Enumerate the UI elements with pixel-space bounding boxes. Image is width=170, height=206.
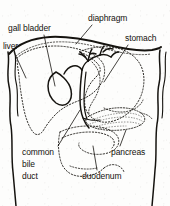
label-duodenum: duodenum <box>82 171 121 181</box>
torso-right-contour <box>152 50 160 206</box>
hepatic-duct-branch-mid-twig <box>90 53 96 54</box>
gall-bladder-outline <box>48 72 71 105</box>
torso-right-inner-contour <box>162 52 166 118</box>
stomach-antrum-fold <box>104 100 143 112</box>
label-common-bile-duct-line1: common <box>22 147 54 157</box>
duodenum-lower-fold <box>70 166 97 169</box>
leader-common-bile-duct <box>58 110 80 146</box>
label-pancreas: pancreas <box>111 147 145 157</box>
label-gall-bladder: gall bladder <box>8 23 51 33</box>
leader-stomach <box>104 45 128 82</box>
label-diaphragm: diaphragm <box>88 13 127 23</box>
anatomy-figure: gall bladder diaphragm stomach liver com… <box>0 0 170 206</box>
hepatic-duct-branch-right-twig <box>100 55 111 57</box>
stomach-lesser-curvature <box>89 62 100 114</box>
duodenum-inner-wall <box>62 132 114 148</box>
leader-duodenum <box>93 146 97 170</box>
label-common-bile-duct-line3: duct <box>22 171 38 181</box>
leader-pancreas <box>120 130 126 146</box>
hepatic-duct-trunk <box>82 61 88 70</box>
cystic-duct <box>64 66 82 74</box>
duodenum-outline <box>60 126 119 154</box>
hepatic-duct-branch-far-right-twig <box>111 52 119 57</box>
label-liver: liver <box>3 41 18 51</box>
torso-outline-group <box>8 50 166 206</box>
label-common-bile-duct-line2: bile <box>22 159 35 169</box>
label-stomach: stomach <box>125 33 156 43</box>
